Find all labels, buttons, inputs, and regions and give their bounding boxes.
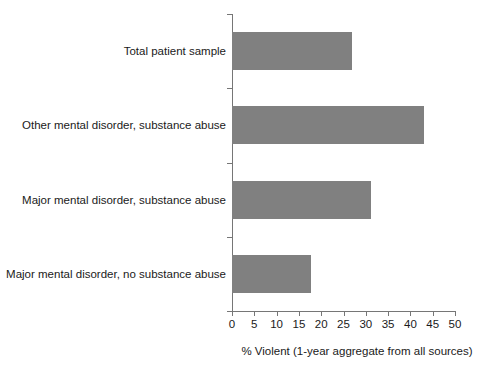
category-label-other-mental-disorder-substance-abuse: Other mental disorder, substance abuse bbox=[0, 119, 226, 132]
x-axis-tick-mark bbox=[433, 311, 434, 316]
bar-row bbox=[232, 163, 455, 237]
bar-row bbox=[232, 14, 455, 88]
bar-major-mental-disorder-no-substance-abuse[interactable] bbox=[232, 255, 311, 293]
x-axis-tick-mark bbox=[277, 311, 278, 316]
x-axis-tick-mark bbox=[321, 311, 322, 316]
bar-major-mental-disorder-substance-abuse[interactable] bbox=[232, 181, 371, 219]
x-axis-tick-mark bbox=[232, 311, 233, 316]
x-axis-tick-mark bbox=[366, 311, 367, 316]
bar-chart: Total patient sample Other mental disord… bbox=[0, 0, 482, 371]
x-axis-tick-mark bbox=[410, 311, 411, 316]
plot-area bbox=[232, 14, 455, 311]
category-label-major-mental-disorder-no-substance-abuse: Major mental disorder, no substance abus… bbox=[0, 268, 226, 281]
x-axis-tick-mark bbox=[388, 311, 389, 316]
x-axis-tick-mark bbox=[455, 311, 456, 316]
x-axis-tick-mark bbox=[254, 311, 255, 316]
bar-total-patient-sample[interactable] bbox=[232, 32, 352, 70]
x-axis-tick-mark bbox=[344, 311, 345, 316]
x-axis-tick-label: 50 bbox=[440, 318, 470, 331]
bar-row bbox=[232, 88, 455, 162]
x-axis-title: % Violent (1-year aggregate from all sou… bbox=[232, 344, 482, 358]
bar-other-mental-disorder-substance-abuse[interactable] bbox=[232, 106, 424, 144]
bar-row bbox=[232, 237, 455, 311]
category-label-major-mental-disorder-substance-abuse: Major mental disorder, substance abuse bbox=[0, 194, 226, 207]
category-label-total-patient-sample: Total patient sample bbox=[0, 45, 226, 58]
x-axis-tick-mark bbox=[299, 311, 300, 316]
